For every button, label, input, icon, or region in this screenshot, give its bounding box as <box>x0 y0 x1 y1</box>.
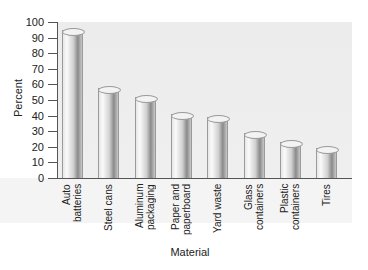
y-tick-label: 100 <box>14 17 44 28</box>
y-tick <box>48 162 57 163</box>
x-axis <box>57 178 352 179</box>
y-tick <box>48 38 57 39</box>
bar-cap <box>280 140 303 148</box>
bar <box>98 88 119 178</box>
x-category-label: Steel cans <box>103 184 114 244</box>
x-category-label: Yard waste <box>212 184 223 244</box>
y-tick <box>48 116 57 117</box>
y-tick-label: 0 <box>14 173 44 184</box>
x-category-label: Tires <box>321 184 332 244</box>
bar <box>62 30 83 178</box>
y-axis-title: Percent <box>12 68 24 128</box>
bar <box>244 133 265 178</box>
y-tick-label: 20 <box>14 142 44 153</box>
bar <box>280 142 301 178</box>
bar-cap <box>207 115 230 123</box>
y-axis <box>57 22 58 179</box>
x-category-label: Glass containers <box>243 184 265 244</box>
bar <box>135 97 156 178</box>
y-tick-label: 90 <box>14 33 44 44</box>
bar-cap <box>135 95 158 103</box>
y-tick <box>48 147 57 148</box>
y-tick <box>48 131 57 132</box>
x-category-label: Paper and paperboard <box>170 184 192 244</box>
bar-cap <box>316 146 339 154</box>
x-category-label: Plastic containers <box>279 184 301 244</box>
x-category-label: Aluminum packaging <box>134 184 156 244</box>
x-category-label: Auto batteries <box>61 184 83 244</box>
bar-cap <box>171 112 194 120</box>
bar-cap <box>62 28 85 36</box>
y-tick <box>48 53 57 54</box>
y-tick <box>48 100 57 101</box>
y-tick <box>48 22 57 23</box>
bar <box>171 114 192 178</box>
bar <box>316 148 337 178</box>
y-tick <box>48 84 57 85</box>
x-axis-title: Material <box>160 246 220 258</box>
y-tick-label: 80 <box>14 48 44 59</box>
y-tick <box>48 178 57 179</box>
y-tick <box>48 69 57 70</box>
bar <box>207 117 228 178</box>
bar-cap <box>98 86 121 94</box>
bar-cap <box>244 131 267 139</box>
y-tick-label: 10 <box>14 157 44 168</box>
